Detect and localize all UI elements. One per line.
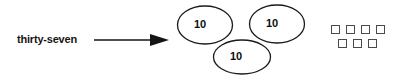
ten-ellipse-1-label: 10	[194, 19, 206, 30]
ten-ellipse-3-label: 10	[230, 51, 242, 62]
unit-square	[376, 25, 385, 34]
ten-ellipse-2-label: 10	[266, 18, 278, 29]
unit-square	[338, 39, 347, 48]
tens-group: 10 10 10	[172, 0, 312, 79]
ones-group	[330, 25, 396, 53]
unit-square	[331, 25, 340, 34]
right-arrow-icon	[92, 31, 172, 49]
ones-row-top	[331, 25, 396, 34]
unit-square	[368, 39, 377, 48]
ones-row-bottom	[338, 39, 396, 48]
number-word-label: thirty-seven	[17, 32, 77, 47]
unit-square	[346, 25, 355, 34]
worksheet-canvas: thirty-seven 10 10 10	[0, 0, 411, 79]
unit-square	[353, 39, 362, 48]
unit-square	[361, 25, 370, 34]
